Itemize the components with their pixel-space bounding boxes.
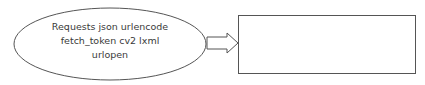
right-arrow-icon: [207, 33, 238, 53]
ellipse-label-line-2: fetch_token cv2 lxml: [14, 34, 206, 48]
output-box: [239, 16, 416, 74]
ellipse-label-line-3: urlopen: [14, 48, 206, 62]
ellipse-label: Requests json urlencode fetch_token cv2 …: [14, 20, 206, 62]
ellipse-label-line-1: Requests json urlencode: [14, 20, 206, 34]
